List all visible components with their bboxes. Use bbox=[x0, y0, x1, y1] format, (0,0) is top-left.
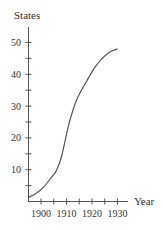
x-tick-label: 1900 bbox=[31, 208, 51, 219]
x-tick-label: 1930 bbox=[108, 208, 128, 219]
y-tick-label: 20 bbox=[11, 132, 21, 143]
y-tick-label: 50 bbox=[11, 37, 21, 48]
y-axis-label: States bbox=[14, 9, 40, 21]
data-line bbox=[28, 49, 117, 198]
x-tick-label: 1920 bbox=[82, 208, 102, 219]
chart: States Year 1020304050 1900191019201930 bbox=[0, 0, 163, 230]
y-tick-label: 40 bbox=[11, 69, 21, 80]
x-axis-label: Year bbox=[134, 195, 155, 207]
y-tick-label: 10 bbox=[11, 164, 21, 175]
x-tick-label: 1910 bbox=[57, 208, 77, 219]
y-tick-label: 30 bbox=[11, 101, 21, 112]
